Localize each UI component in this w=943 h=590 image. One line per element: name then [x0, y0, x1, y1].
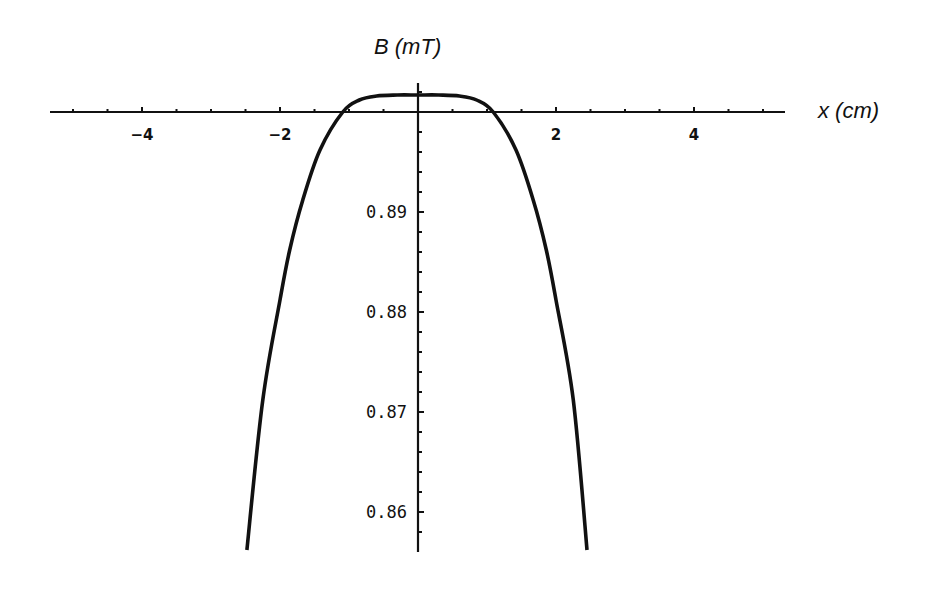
- y-axis-title: B (mT): [374, 34, 441, 59]
- x-tick-label: −4: [130, 126, 153, 144]
- x-axis: −4−224 x (cm): [50, 98, 879, 144]
- x-axis-tick-labels: −4−224: [130, 126, 699, 144]
- y-tick-label: 0.86: [366, 502, 407, 522]
- y-tick-label: 0.88: [366, 302, 407, 322]
- x-axis-title: x (cm): [817, 98, 879, 123]
- y-axis-tick-labels: 0.860.870.880.89: [366, 202, 407, 522]
- x-tick-label: −2: [268, 126, 291, 144]
- x-tick-label: 2: [551, 126, 561, 144]
- y-tick-label: 0.87: [366, 402, 407, 422]
- y-tick-label: 0.89: [366, 202, 407, 222]
- chart: −4−224 x (cm) 0.860.870.880.89 B (mT): [0, 0, 943, 590]
- x-tick-label: 4: [689, 126, 699, 144]
